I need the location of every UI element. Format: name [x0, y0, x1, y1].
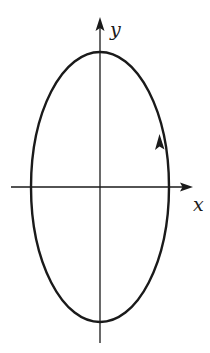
- x-axis-label: x: [193, 193, 204, 215]
- y-axis-label: y: [109, 18, 121, 40]
- ellipse-diagram: y x: [0, 0, 210, 353]
